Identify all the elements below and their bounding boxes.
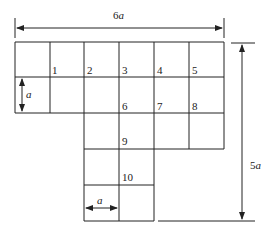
grid-diagram: 6a 5a a a 1 2 3 4 5 6 7 8 9 10 xyxy=(0,0,270,234)
cell-vertical-label: a xyxy=(26,88,32,100)
node-label-4: 4 xyxy=(157,64,163,76)
node-label-7: 7 xyxy=(157,100,163,112)
cell-horizontal-label: a xyxy=(97,194,103,206)
node-labels: 1 2 3 4 5 6 7 8 9 10 xyxy=(52,64,198,183)
height-dimension xyxy=(158,43,255,221)
node-label-8: 8 xyxy=(192,100,198,112)
node-label-9: 9 xyxy=(122,135,128,147)
node-label-10: 10 xyxy=(122,171,134,183)
node-label-1: 1 xyxy=(52,64,58,76)
node-label-5: 5 xyxy=(192,64,198,76)
node-label-3: 3 xyxy=(122,64,128,76)
height-label: 5a xyxy=(250,159,262,171)
node-label-6: 6 xyxy=(122,100,128,112)
node-label-2: 2 xyxy=(87,64,93,76)
width-dimension xyxy=(15,18,224,38)
width-label: 6a xyxy=(113,9,125,21)
